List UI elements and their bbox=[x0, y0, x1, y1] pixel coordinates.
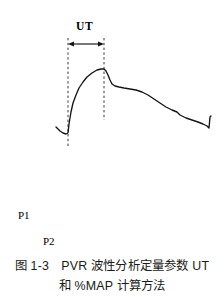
figure-container: UT bbox=[0, 0, 224, 297]
top-waveform-svg bbox=[0, 0, 224, 150]
ut-label: UT bbox=[76, 20, 93, 32]
pvr-waveform-top bbox=[56, 69, 211, 134]
top-waveform-panel: UT bbox=[0, 0, 224, 150]
bottom-waveform-svg bbox=[0, 150, 224, 258]
ut-double-arrow bbox=[68, 41, 104, 46]
figure-caption: 图 1-3 PVR 波性分析定量参数 UT 和 %MAP 计算方法 bbox=[0, 256, 224, 297]
caption-line-1: 图 1-3 PVR 波性分析定量参数 UT bbox=[0, 256, 224, 276]
caption-line-2: 和 %MAP 计算方法 bbox=[0, 276, 224, 296]
p2-label: P2 bbox=[43, 235, 55, 247]
bottom-waveform-panel: P1 P2 bbox=[0, 150, 224, 258]
p1-label: P1 bbox=[18, 209, 30, 221]
